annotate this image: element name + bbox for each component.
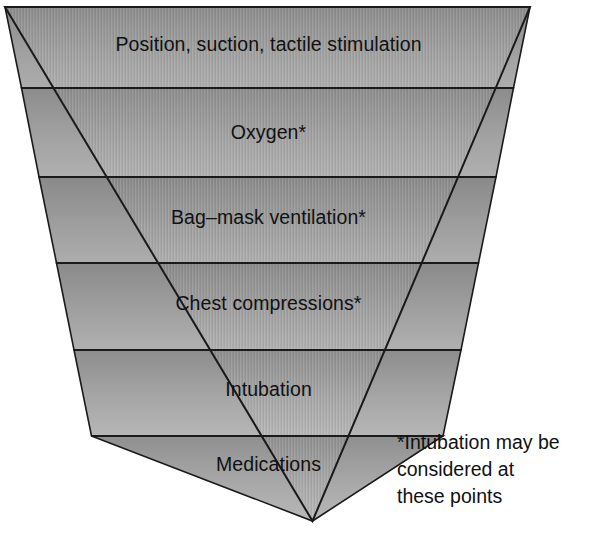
footnote-line-1: *Intubation may be — [397, 429, 587, 456]
band-label-3-text: Bag–mask ventilation* — [171, 206, 366, 228]
band-label-3: Bag–mask ventilation* — [0, 208, 537, 228]
band-label-1: Position, suction, tactile stimulation — [0, 35, 537, 55]
inverted-pyramid-diagram: Position, suction, tactile stimulation O… — [0, 0, 614, 533]
band-label-5-text: Intubation — [225, 378, 312, 400]
band-label-2: Oxygen* — [0, 123, 537, 143]
band-label-6-text: Medications — [216, 453, 321, 475]
band-label-5: Intubation — [0, 380, 537, 400]
band-shape-6 — [92, 436, 444, 521]
band-label-4: Chest compressions* — [0, 294, 537, 314]
footnote-line-2: considered at — [397, 456, 587, 483]
footnote-note: *Intubation may be considered at these p… — [397, 429, 587, 510]
footnote-line-3: these points — [397, 483, 587, 510]
band-label-4-text: Chest compressions* — [175, 292, 361, 314]
band-label-2-text: Oxygen* — [231, 121, 307, 143]
band-label-1-text: Position, suction, tactile stimulation — [115, 33, 421, 55]
